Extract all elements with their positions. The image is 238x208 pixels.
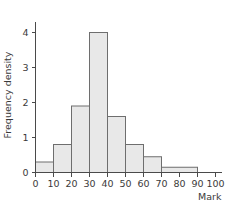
histogram-bar: [90, 33, 108, 173]
histogram-bar: [126, 145, 144, 173]
y-tick-label: 2: [22, 97, 28, 108]
histogram-bar: [36, 162, 54, 173]
x-axis-ticks: 0102030405060708090100: [32, 173, 224, 190]
x-tick-label: 80: [173, 178, 185, 189]
histogram-bar: [162, 167, 198, 172]
x-tick-label: 40: [101, 178, 113, 189]
y-tick-label: 1: [22, 132, 28, 143]
histogram-bar: [144, 157, 162, 173]
y-tick-label: 0: [22, 167, 28, 178]
x-tick-label: 30: [83, 178, 95, 189]
x-tick-label: 60: [137, 178, 149, 189]
x-axis-title: Mark: [198, 191, 222, 202]
histogram-bar: [72, 106, 90, 173]
x-tick-label: 50: [119, 178, 131, 189]
y-axis-title: Frequency density: [2, 51, 13, 138]
x-tick-label: 90: [191, 178, 203, 189]
chart-canvas: 0102030405060708090100 01234 Mark Freque…: [0, 0, 238, 208]
x-tick-label: 10: [47, 178, 59, 189]
histogram-bar: [54, 145, 72, 173]
bars-group: [36, 33, 198, 173]
y-axis-ticks: 01234: [22, 27, 35, 178]
y-tick-label: 3: [22, 62, 28, 73]
y-tick-label: 4: [22, 27, 28, 38]
histogram-bar: [108, 117, 126, 173]
histogram-chart: 0102030405060708090100 01234 Mark Freque…: [0, 0, 238, 208]
x-tick-label: 0: [32, 178, 38, 189]
x-tick-label: 20: [65, 178, 77, 189]
x-tick-label: 100: [206, 178, 224, 189]
x-tick-label: 70: [155, 178, 167, 189]
